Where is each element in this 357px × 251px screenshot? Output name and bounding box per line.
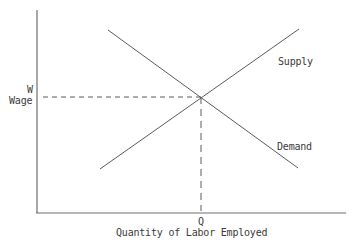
labor-market-diagram — [0, 0, 357, 251]
demand-curve — [108, 30, 298, 168]
y-axis-title: Wage — [9, 95, 32, 106]
supply-curve — [100, 29, 299, 169]
demand-label: Demand — [277, 141, 312, 152]
wage-tick-label: W — [27, 84, 33, 95]
supply-label: Supply — [278, 56, 313, 67]
quantity-tick-label: Q — [198, 216, 204, 227]
x-axis-title: Quantity of Labor Employed — [116, 227, 267, 238]
